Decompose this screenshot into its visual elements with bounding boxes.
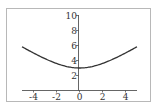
y-tick-label: 10 <box>66 11 78 21</box>
y-tick-label: 8 <box>71 26 77 36</box>
x-tick-label: 4 <box>123 92 129 102</box>
y-tick-label: 6 <box>71 41 77 51</box>
y-tick-label: 4 <box>71 56 77 66</box>
x-tick-label: -2 <box>52 92 61 102</box>
y-tick-label: 2 <box>71 71 77 81</box>
x-tick-label: 2 <box>100 92 106 102</box>
x-tick-label: 0 <box>77 92 83 102</box>
chart: 246810 -4-2024 <box>0 0 155 107</box>
x-tick-label: -4 <box>29 92 38 102</box>
